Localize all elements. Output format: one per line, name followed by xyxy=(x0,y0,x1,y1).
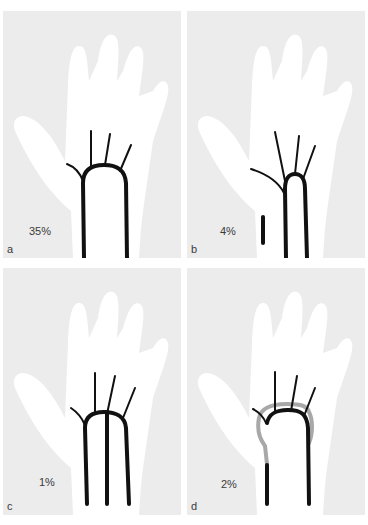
hand-diagram-c xyxy=(3,268,181,515)
hand-diagram-a xyxy=(3,11,181,258)
panel-b: 4% b xyxy=(187,11,365,258)
hand-diagram-b xyxy=(187,11,365,258)
panel-c: 1% c xyxy=(3,268,181,515)
panel-d: 2% d xyxy=(187,268,365,515)
percentage-label: 35% xyxy=(29,225,51,237)
percentage-label: 1% xyxy=(39,476,55,488)
percentage-label: 2% xyxy=(221,478,237,490)
panel-letter: a xyxy=(7,243,13,255)
panel-letter: b xyxy=(191,243,197,255)
panel-a: 35% a xyxy=(3,11,181,258)
panel-letter: c xyxy=(7,500,13,512)
hand-silhouette xyxy=(14,292,168,515)
panel-letter: d xyxy=(191,500,197,512)
percentage-label: 4% xyxy=(220,225,236,237)
hand-diagram-d xyxy=(187,268,365,515)
